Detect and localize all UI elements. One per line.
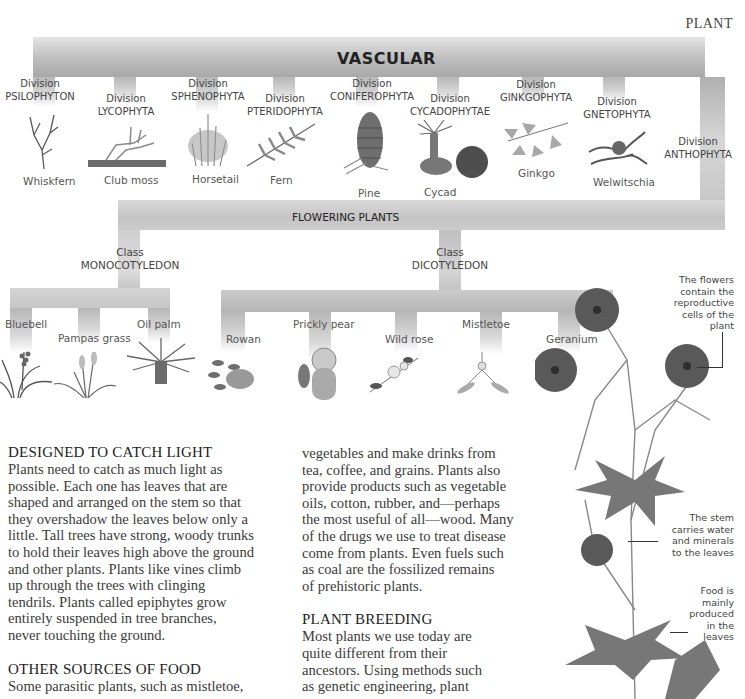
pampas-grass-illustration xyxy=(52,352,118,398)
annotation-stem: The stem carries water and minerals to t… xyxy=(650,512,734,558)
article-column-1: DESIGNED TO CATCH LIGHT Plants need to c… xyxy=(8,444,293,694)
whiskfern-illustration xyxy=(22,105,64,170)
bluebell-illustration xyxy=(0,340,55,398)
ginkgo-illustration xyxy=(502,115,572,160)
plant-name: Wild rose xyxy=(385,333,433,345)
plant-name: Rowan xyxy=(226,333,261,345)
division-label: Division SPHENOPHYTA xyxy=(168,77,248,103)
welwitschia-illustration xyxy=(587,130,649,172)
division-label: Division GNETOPHYTA xyxy=(582,95,652,121)
wild-rose-illustration xyxy=(368,352,424,394)
plant-name: Horsetail xyxy=(192,173,239,185)
division-label: Division PSILOPHYTON xyxy=(2,77,78,103)
section-heading: OTHER SOURCES OF FOOD xyxy=(8,661,293,678)
monocot-bar xyxy=(10,288,170,308)
plant-name: Welwitschia xyxy=(593,176,655,188)
plant-name: Ginkgo xyxy=(518,167,555,179)
leader-line xyxy=(670,632,688,633)
plant-name: Fern xyxy=(270,174,293,186)
mistletoe-illustration xyxy=(452,350,514,398)
oil-palm-illustration xyxy=(125,338,197,388)
pine-cone-illustration xyxy=(342,108,392,180)
leader-line xyxy=(628,541,658,542)
section-heading: DESIGNED TO CATCH LIGHT xyxy=(8,444,293,461)
connector xyxy=(395,312,417,352)
article-column-2: vegetables and make drinks from tea, cof… xyxy=(302,445,562,695)
vascular-bar xyxy=(33,37,355,77)
plant-name: Pampas grass xyxy=(58,332,131,344)
plant-name: Pine xyxy=(358,187,380,199)
horsetail-illustration xyxy=(178,108,238,168)
prickly-pear-illustration xyxy=(294,346,342,400)
leader-line xyxy=(697,367,723,368)
flowering-plants-label: FLOWERING PLANTS xyxy=(292,211,399,223)
cycad-illustration xyxy=(414,118,492,182)
annotation-flowers: The flowers contain the reproductive cel… xyxy=(655,274,734,332)
connector xyxy=(221,312,245,352)
division-label: Division ANTHOPHYTA xyxy=(660,135,736,161)
plant-name: Club moss xyxy=(104,174,159,186)
annotation-leaves: Food is mainly produced in the leaves xyxy=(660,585,734,643)
fern-illustration xyxy=(245,120,317,170)
flowering-plants-bar xyxy=(118,200,725,230)
plant-name: Bluebell xyxy=(5,318,47,330)
class-label: Class MONOCOTYLEDON xyxy=(80,246,180,272)
leader-line xyxy=(722,332,723,368)
vascular-label: VASCULAR xyxy=(337,49,436,68)
division-label: Division PTERIDOPHYTA xyxy=(245,92,325,118)
division-label: Division CONIFEROPHYTA xyxy=(330,77,414,103)
plant-name: Prickly pear xyxy=(293,318,355,330)
running-head: PLANT xyxy=(685,16,733,32)
section-heading: PLANT BREEDING xyxy=(302,611,562,628)
plant-name: Oil palm xyxy=(137,318,181,330)
class-label: Class DICOTYLEDON xyxy=(400,246,500,272)
club-moss-illustration xyxy=(86,125,168,170)
division-label: Division LYCOPHYTA xyxy=(90,92,162,118)
rowan-illustration xyxy=(208,355,263,400)
division-label: Division CYCADOPHYTAE xyxy=(410,92,490,118)
plant-name: Whiskfern xyxy=(23,175,75,187)
plant-name: Mistletoe xyxy=(462,318,510,330)
division-label: Division GINKGOPHYTA xyxy=(496,78,576,104)
plant-name: Cycad xyxy=(424,186,456,198)
